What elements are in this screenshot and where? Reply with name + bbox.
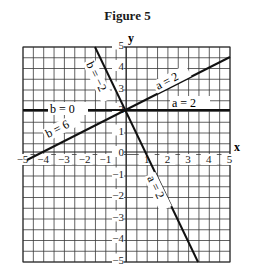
x-axis-label: x — [234, 140, 240, 154]
x-tick-label: 2 — [165, 153, 171, 165]
x-tick-label: 5 — [227, 153, 233, 165]
x-tick-label: 3 — [185, 153, 191, 165]
y-tick-label: 4 — [119, 60, 125, 72]
x-tick-label: −1 — [99, 153, 111, 165]
y-tick-label: −3 — [112, 211, 124, 223]
y-tick-label: −1 — [112, 168, 124, 180]
coordinate-plane: −5−4−3−2−112345543210−1−2−3−4−5 x y b = … — [0, 0, 255, 273]
y-tick-label: 5 — [119, 39, 125, 51]
y-tick-label: 3 — [119, 82, 125, 94]
y-tick-label: 0 — [119, 146, 125, 158]
label-a-2-horizontal: a = 2 — [172, 96, 196, 110]
y-axis-label: y — [128, 31, 134, 45]
y-tick-label: −2 — [112, 189, 124, 201]
y-tick-label: −4 — [112, 232, 124, 244]
label-b-0: b = 0 — [50, 102, 75, 116]
x-tick-label: 4 — [206, 153, 212, 165]
x-tick-label: −2 — [79, 153, 91, 165]
y-tick-label: −5 — [112, 254, 124, 266]
y-tick-label: 1 — [119, 125, 125, 137]
x-tick-label: −3 — [58, 153, 70, 165]
